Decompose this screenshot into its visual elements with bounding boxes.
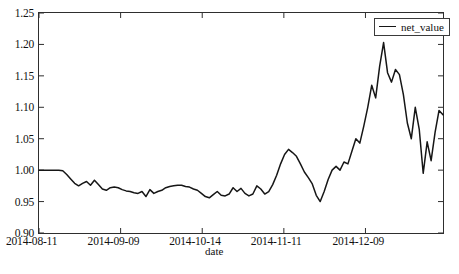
x-tick-label: 2014-12-09	[332, 235, 384, 247]
x-axis-title: date	[205, 245, 223, 257]
y-tick-label: 1.05	[0, 133, 34, 145]
x-tick-label: 2014-11-11	[251, 235, 302, 247]
chart-figure: 0.900.951.001.051.101.151.201.25 2014-08…	[0, 0, 459, 274]
x-tick-label: 2014-08-11	[6, 235, 57, 247]
legend-label-net-value: net_value	[401, 21, 444, 33]
chart-legend: net_value	[374, 18, 450, 36]
y-tick-label: 1.15	[0, 70, 34, 82]
y-tick-label: 1.20	[0, 38, 34, 50]
line-chart-canvas	[0, 0, 459, 274]
y-tick-label: 1.10	[0, 101, 34, 113]
y-tick-label: 1.00	[0, 164, 34, 176]
legend-line-swatch	[379, 26, 396, 27]
y-tick-label: 1.25	[0, 7, 34, 19]
x-tick-label: 2014-09-09	[88, 235, 140, 247]
y-tick-label: 0.95	[0, 196, 34, 208]
